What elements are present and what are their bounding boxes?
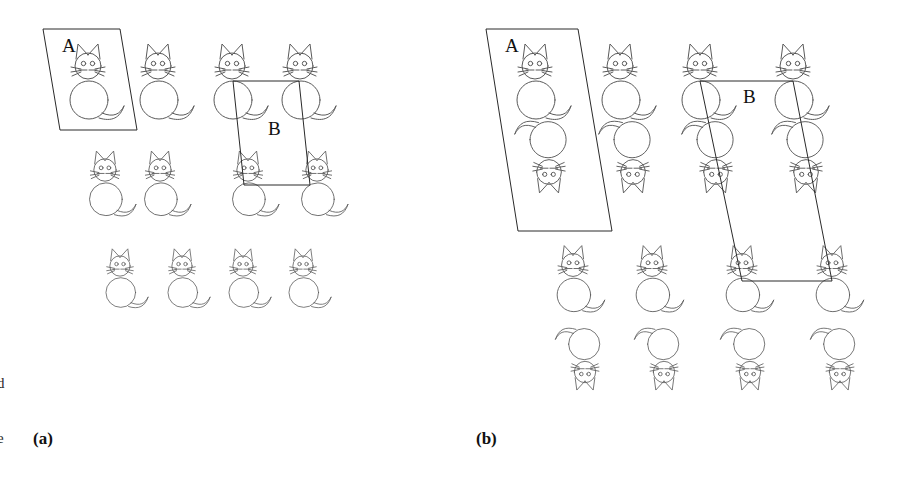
cat-motif-upright — [233, 151, 279, 216]
cat-motif-upright — [517, 44, 571, 120]
cat-motif-upright — [636, 246, 684, 312]
cat-motif-inverted — [720, 328, 764, 390]
panel-label-b: (b) — [476, 429, 497, 449]
cat-motif-upright — [106, 249, 148, 308]
unit-cell-label-b-panel-b: B — [743, 86, 756, 107]
cat-motif-inverted — [555, 328, 599, 390]
cat-motif-upright — [140, 44, 194, 120]
panel-label-a: (a) — [33, 429, 53, 449]
cat-motif-upright — [726, 246, 774, 312]
unit-cell-label-b-panel-a: B — [268, 118, 281, 139]
cat-motif-upright — [289, 249, 331, 308]
cat-motif-upright — [90, 151, 136, 216]
unit-cell-layer: ABAB — [43, 29, 832, 281]
cat-motif-upright — [816, 246, 864, 312]
cat-motif-inverted — [634, 328, 678, 390]
cat-motif-upright — [682, 44, 736, 120]
unit-cell-label-a-panel-a: A — [62, 35, 76, 56]
cat-motif-inverted — [682, 121, 733, 193]
cat-motif-inverted — [515, 121, 566, 193]
diagram-svg: ABAB — [0, 0, 903, 481]
figure-canvas: d e ABAB (a) (b) — [0, 0, 903, 481]
cat-motif-upright — [557, 246, 605, 312]
cat-motif-upright — [229, 249, 271, 308]
cat-motif-upright — [145, 151, 191, 216]
unit-cell-a-panel-b — [486, 29, 612, 231]
unit-cell-b-panel-b — [700, 81, 832, 281]
cat-motif-inverted — [599, 121, 650, 193]
cat-motif-inverted — [810, 328, 854, 390]
cat-motif-upright — [602, 44, 656, 120]
cat-motif-upright — [302, 151, 348, 216]
cat-motif-inverted — [772, 121, 823, 193]
cat-motif-upright — [775, 44, 829, 120]
cat-motif-upright — [282, 44, 336, 120]
unit-cell-label-a-panel-b: A — [505, 35, 519, 56]
cat-motif-upright — [168, 249, 210, 308]
cat-motif-upright — [70, 44, 124, 120]
unit-cell-a-panel-a — [43, 29, 137, 130]
cat-motif-upright — [214, 44, 268, 120]
